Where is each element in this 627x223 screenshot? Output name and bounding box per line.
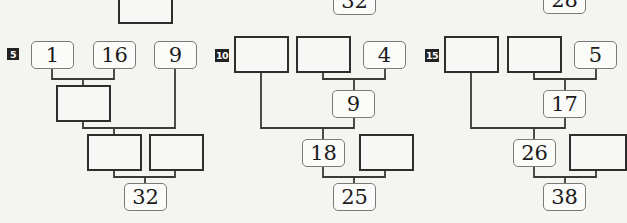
given-value: 17 <box>551 94 578 115</box>
prev-result-value: 32 <box>341 0 368 12</box>
answer-box[interactable] <box>444 36 499 73</box>
answer-box[interactable] <box>56 85 111 122</box>
answer-box[interactable] <box>359 134 414 171</box>
given-number-box: 26 <box>513 139 556 167</box>
result-value: 25 <box>341 187 368 208</box>
result-box: 25 <box>333 183 376 211</box>
given-value: 4 <box>378 45 391 66</box>
given-number-box: 18 <box>302 139 345 167</box>
given-number-box: 5 <box>574 41 617 69</box>
given-number-box: 16 <box>93 41 136 69</box>
prev-blank-box[interactable] <box>118 0 173 24</box>
result-value: 38 <box>551 187 578 208</box>
given-value: 5 <box>589 45 602 66</box>
given-value: 26 <box>521 143 548 164</box>
given-number-box: 17 <box>543 90 586 118</box>
given-value: 1 <box>46 45 59 66</box>
given-value: 9 <box>347 94 360 115</box>
prev-result-box: 28 <box>543 0 586 14</box>
puzzle-number-badge: 10 <box>215 49 229 62</box>
given-number-box: 4 <box>363 41 406 69</box>
answer-box[interactable] <box>87 134 142 171</box>
given-number-box: 9 <box>154 41 197 69</box>
answer-box[interactable] <box>234 36 289 73</box>
given-number-box: 9 <box>332 90 375 118</box>
answer-box[interactable] <box>149 134 204 171</box>
prev-result-value: 28 <box>551 0 578 11</box>
answer-box[interactable] <box>507 36 562 73</box>
result-box: 32 <box>124 183 167 211</box>
puzzle-number-badge: 15 <box>425 49 439 62</box>
puzzle-number-badge: 5 <box>7 48 19 60</box>
given-value: 9 <box>169 45 182 66</box>
given-value: 18 <box>310 143 337 164</box>
result-box: 38 <box>543 183 586 211</box>
answer-box[interactable] <box>296 36 351 73</box>
answer-box[interactable] <box>569 134 627 171</box>
prev-result-box: 32 <box>333 0 376 15</box>
given-number-box: 1 <box>31 41 74 69</box>
result-value: 32 <box>132 187 159 208</box>
given-value: 16 <box>101 45 128 66</box>
